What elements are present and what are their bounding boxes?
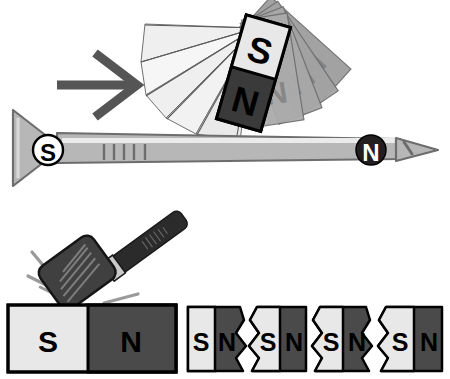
- fragment-1-s-letter: S: [193, 328, 210, 356]
- fragment-4-s-letter: S: [392, 328, 409, 356]
- whole-bar-magnet: S N: [8, 305, 176, 372]
- whole-magnet-s-letter: S: [38, 325, 58, 358]
- nail-shaft: [57, 133, 400, 163]
- nail-pole-n-badge: N: [356, 135, 386, 166]
- fragment-2: S N: [249, 307, 306, 371]
- illustration-canvas: S N S N S N S N: [0, 0, 450, 379]
- nail-pole-s-letter: S: [40, 139, 56, 166]
- whole-magnet-n-letter: N: [120, 325, 142, 358]
- fragment-3-s-letter: S: [323, 328, 340, 356]
- nail-pole-n-letter: N: [362, 139, 379, 166]
- fragment-1: S N: [188, 307, 246, 371]
- magnet-diagram-svg: S N S N S N S N: [0, 0, 450, 379]
- fragment-2-s-letter: S: [260, 328, 277, 356]
- fragment-1-n-letter: N: [218, 328, 236, 356]
- nail-pole-s-badge: S: [33, 135, 63, 166]
- fragment-4-n-letter: N: [420, 328, 438, 356]
- fragment-3-n-letter: N: [348, 328, 366, 356]
- fragment-3: S N: [312, 307, 372, 371]
- fragment-2-n-letter: N: [285, 328, 303, 356]
- fragment-4: S N: [378, 307, 442, 371]
